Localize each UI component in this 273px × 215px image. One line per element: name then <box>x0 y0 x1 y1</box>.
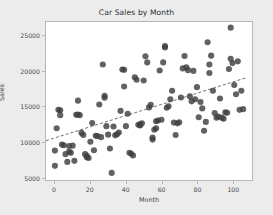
data-point <box>158 117 164 123</box>
data-point <box>91 147 97 153</box>
data-point <box>68 150 74 156</box>
data-point <box>109 170 115 176</box>
data-point <box>121 67 127 73</box>
data-point <box>130 152 136 158</box>
data-point <box>148 102 154 108</box>
data-point <box>235 58 241 64</box>
data-point <box>87 139 93 145</box>
data-point <box>123 123 129 129</box>
data-point <box>80 132 86 138</box>
data-point <box>217 95 223 101</box>
x-tick-label: 40 <box>122 186 130 193</box>
x-tick-mark <box>162 181 163 184</box>
data-point <box>103 123 109 129</box>
data-point <box>228 25 234 31</box>
data-point <box>231 82 237 88</box>
y-axis-label: Sales <box>0 84 6 101</box>
data-point <box>89 120 95 126</box>
x-axis-label: Month <box>45 196 253 204</box>
data-point <box>102 93 108 99</box>
data-point <box>77 112 83 118</box>
data-point <box>116 129 122 135</box>
data-point <box>139 120 145 126</box>
data-point <box>125 111 131 117</box>
chart-title: Car Sales by Month <box>0 8 273 17</box>
x-tick-label: 0 <box>52 186 56 193</box>
data-point <box>208 53 214 59</box>
data-point <box>144 59 150 65</box>
data-point <box>61 142 67 148</box>
data-point <box>176 119 182 125</box>
data-point <box>153 125 159 131</box>
data-point <box>96 101 102 107</box>
data-point <box>240 106 246 112</box>
x-tick-mark <box>126 181 127 184</box>
data-point <box>71 158 77 164</box>
data-point <box>229 60 235 66</box>
data-point <box>134 77 140 83</box>
data-point <box>196 114 202 120</box>
data-point <box>199 105 205 111</box>
data-point <box>162 44 168 50</box>
x-tick-mark <box>54 181 55 184</box>
data-point <box>206 70 212 76</box>
data-point <box>185 67 191 73</box>
plot-area <box>45 21 253 181</box>
chart-figure: Car Sales by Month Sales Month 500010000… <box>0 0 273 215</box>
data-point <box>167 96 173 102</box>
data-point <box>110 123 116 129</box>
data-point <box>105 132 111 138</box>
y-tick-label: 25000 <box>8 31 40 38</box>
data-point <box>205 39 211 45</box>
data-point <box>233 91 239 97</box>
x-tick-label: 80 <box>193 186 201 193</box>
y-tick-label: 10000 <box>8 139 40 146</box>
data-point <box>107 145 113 151</box>
data-point <box>86 155 92 161</box>
data-point <box>70 143 76 149</box>
data-point <box>121 83 127 89</box>
data-point <box>57 112 63 118</box>
data-point <box>52 163 58 169</box>
data-point <box>224 110 230 116</box>
data-point <box>141 77 147 83</box>
y-tick-label: 20000 <box>8 67 40 74</box>
data-point <box>192 96 198 102</box>
data-point <box>64 159 70 165</box>
data-point <box>100 61 106 67</box>
data-point <box>201 128 207 134</box>
data-point <box>181 53 187 59</box>
data-point <box>118 108 124 114</box>
data-point <box>173 132 179 138</box>
x-tick-label: 60 <box>158 186 166 193</box>
data-point <box>238 88 244 94</box>
data-point <box>178 94 184 100</box>
data-point <box>169 88 175 94</box>
data-point <box>54 125 60 131</box>
data-point <box>197 99 203 105</box>
data-point <box>206 61 212 67</box>
x-tick-label: 100 <box>227 186 239 193</box>
data-point <box>157 67 163 73</box>
x-tick-mark <box>90 181 91 184</box>
data-point <box>149 134 155 140</box>
x-tick-mark <box>233 181 234 184</box>
data-point <box>203 119 209 125</box>
data-point <box>75 98 81 104</box>
y-tick-label: 5000 <box>8 175 40 182</box>
data-point <box>165 103 171 109</box>
scatter-points <box>46 22 252 180</box>
data-point <box>160 59 166 65</box>
y-tick-label: 15000 <box>8 103 40 110</box>
data-point <box>52 148 58 154</box>
data-point <box>226 66 232 72</box>
data-point <box>98 134 104 140</box>
data-point <box>194 84 200 90</box>
data-point <box>142 53 148 59</box>
x-tick-mark <box>197 181 198 184</box>
data-point <box>190 68 196 74</box>
data-point <box>210 88 216 94</box>
x-tick-label: 20 <box>86 186 94 193</box>
data-point <box>221 116 227 122</box>
